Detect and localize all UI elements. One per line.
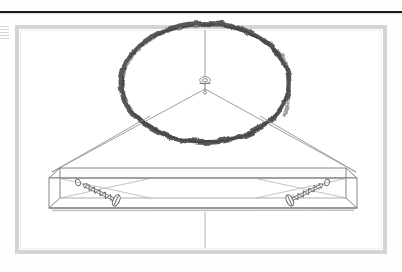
- scanned-page: [0, 0, 402, 272]
- paper-texture: [0, 0, 402, 272]
- assembly-illustration: [0, 0, 402, 272]
